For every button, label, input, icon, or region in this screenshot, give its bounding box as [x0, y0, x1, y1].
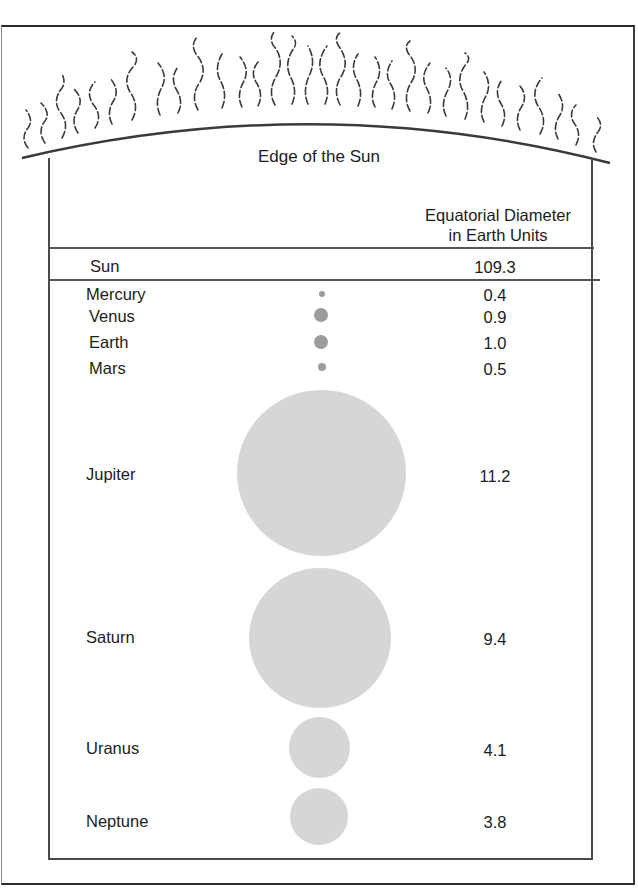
header-divider — [48, 247, 594, 249]
planet-value-saturn: 9.4 — [455, 629, 535, 649]
planet-name-saturn: Saturn — [86, 627, 135, 647]
planet-name-venus: Venus — [89, 306, 135, 326]
planet-value-venus: 0.9 — [455, 307, 535, 327]
planet-circle-neptune — [290, 788, 348, 845]
planet-circle-jupiter — [237, 390, 406, 556]
sun-edge-label: Edge of the Sun — [0, 147, 638, 167]
planet-value-neptune: 3.8 — [455, 812, 535, 832]
planet-name-earth: Earth — [89, 332, 128, 352]
sun-row-divider — [48, 279, 600, 281]
sun-value: 109.3 — [455, 257, 535, 277]
planet-circle-earth — [314, 335, 328, 349]
sun-name: Sun — [90, 256, 119, 276]
solar-flares — [24, 31, 601, 152]
planet-value-earth: 1.0 — [455, 333, 535, 353]
planet-value-mars: 0.5 — [455, 359, 535, 379]
planet-circle-venus — [314, 308, 328, 322]
column-header: Equatorial Diameter in Earth Units — [382, 205, 614, 245]
planet-name-uranus: Uranus — [86, 738, 139, 758]
column-header-line1: Equatorial Diameter — [382, 205, 614, 225]
planet-name-neptune: Neptune — [86, 811, 148, 831]
planet-circle-mercury — [319, 291, 325, 297]
planet-value-mercury: 0.4 — [455, 285, 535, 305]
planet-circle-mars — [318, 363, 326, 371]
planet-circle-uranus — [289, 717, 350, 778]
column-header-line2: in Earth Units — [382, 225, 614, 245]
planet-name-jupiter: Jupiter — [86, 464, 136, 484]
planet-name-mercury: Mercury — [86, 284, 146, 304]
planet-name-mars: Mars — [89, 358, 126, 378]
planet-value-uranus: 4.1 — [455, 740, 535, 760]
planet-value-jupiter: 11.2 — [455, 466, 535, 486]
planet-circle-saturn — [249, 568, 391, 708]
